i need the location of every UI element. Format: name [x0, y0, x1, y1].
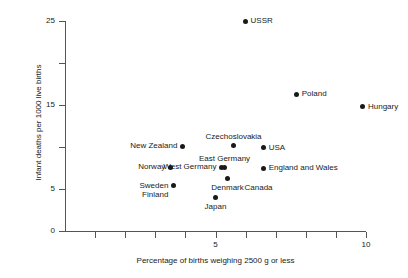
x-axis-minor-tick: [155, 232, 156, 238]
data-point-label: Denmark: [211, 183, 243, 192]
data-point-label: USSR: [251, 16, 273, 25]
x-axis-tick-label: 5: [204, 240, 228, 249]
y-axis-tick: [59, 231, 65, 232]
y-axis-tick-label: 5: [33, 184, 55, 193]
data-point-label: Sweden: [139, 181, 168, 190]
data-point[interactable]: [171, 183, 176, 188]
data-point[interactable]: [294, 92, 299, 97]
data-point[interactable]: [231, 143, 236, 148]
data-point-label: Hungary: [368, 102, 398, 111]
y-axis-line: [65, 21, 66, 232]
data-point[interactable]: [225, 176, 230, 181]
x-axis-minor-tick: [125, 232, 126, 238]
x-axis-minor-tick: [336, 232, 337, 238]
y-axis-tick: [59, 189, 65, 190]
data-point-label: Japan: [205, 202, 227, 211]
x-axis-minor-tick: [246, 232, 247, 238]
data-point-label: England and Wales: [269, 163, 338, 172]
data-point-label: Canada: [245, 183, 273, 192]
y-axis-tick: [59, 105, 65, 106]
y-axis-tick: [59, 21, 65, 22]
data-point-label: Norway: [138, 162, 165, 171]
data-point[interactable]: [360, 104, 365, 109]
data-point-label: Finland: [142, 190, 168, 199]
data-point[interactable]: [261, 145, 266, 150]
x-axis-tick-label: 10: [354, 240, 378, 249]
data-point-label: West Germany: [163, 162, 216, 171]
y-axis-tick-label: 15: [33, 100, 55, 109]
data-point-label: USA: [269, 143, 285, 152]
data-point-label: New Zealand: [130, 141, 177, 150]
y-axis-minor-tick: [59, 63, 65, 64]
x-axis-minor-tick: [306, 232, 307, 238]
data-point-label: Poland: [302, 89, 327, 98]
x-axis-tick: [216, 232, 217, 238]
data-point[interactable]: [261, 166, 266, 171]
x-axis-minor-tick: [95, 232, 96, 238]
y-axis-tick-label: 25: [33, 16, 55, 25]
x-axis-minor-tick: [276, 232, 277, 238]
data-point[interactable]: [219, 165, 224, 170]
data-point[interactable]: [243, 19, 248, 24]
x-axis-minor-tick: [185, 232, 186, 238]
x-axis-tick: [366, 232, 367, 238]
y-axis-minor-tick: [59, 147, 65, 148]
data-point[interactable]: [213, 195, 218, 200]
data-point-label: Czechoslovakia: [206, 132, 262, 141]
y-axis-tick-label: 0: [33, 226, 55, 235]
x-axis-title: Percentage of births weighing 2500 g or …: [65, 256, 366, 265]
data-point[interactable]: [180, 144, 185, 149]
scatter-plot-figure: Infant deaths per 1000 live births Perce…: [0, 0, 408, 278]
